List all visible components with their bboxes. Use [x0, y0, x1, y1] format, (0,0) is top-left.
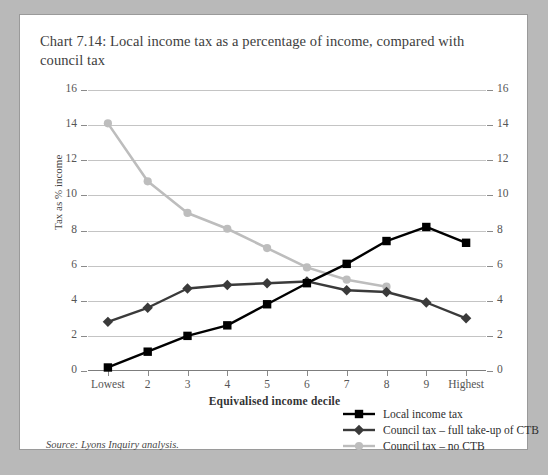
series-marker [421, 297, 431, 307]
series-marker [462, 239, 470, 247]
y-axis-tick [487, 266, 493, 267]
y-axis-label: 4 [497, 293, 503, 305]
y-axis-tick [487, 195, 493, 196]
series-marker [303, 279, 311, 287]
legend-item[interactable]: Local income tax [342, 406, 539, 422]
series-marker [262, 278, 272, 288]
x-axis-tick [466, 371, 467, 376]
legend-label: Council tax – full take-up of CTB [383, 424, 539, 436]
x-axis-tick [227, 371, 228, 376]
y-axis-tick [81, 125, 87, 126]
y-axis-label: 6 [71, 258, 77, 270]
legend-key-square-icon [342, 407, 376, 421]
y-axis-label: 14 [497, 117, 509, 129]
series-marker [263, 300, 271, 308]
x-axis-label: 3 [185, 378, 191, 390]
y-axis-label: 0 [71, 363, 77, 375]
y-axis-label: 2 [71, 328, 77, 340]
y-axis-tick [487, 231, 493, 232]
x-axis-label: 2 [145, 378, 151, 390]
x-axis-label: 4 [224, 378, 230, 390]
series-marker [342, 285, 352, 295]
y-axis-tick [81, 336, 87, 337]
series-marker [303, 263, 311, 271]
y-axis-label: 12 [66, 152, 78, 164]
chart-figure-panel: Chart 7.14: Local income tax as a percen… [19, 14, 528, 450]
series-marker [144, 177, 152, 185]
y-axis-label: 0 [497, 363, 503, 375]
y-axis-tick [81, 371, 87, 372]
series-marker [182, 283, 192, 293]
legend-key-circle-icon [342, 439, 376, 453]
series-line [108, 281, 466, 321]
plot-area: 00224466881010121214141616 Lowest2345678… [88, 90, 486, 371]
y-axis-label: 4 [71, 293, 77, 305]
legend-item[interactable]: Council tax – no CTB [342, 438, 539, 454]
series-marker [104, 119, 112, 127]
x-axis-tick [347, 371, 348, 376]
series-marker [183, 209, 191, 217]
series-marker [343, 260, 351, 268]
y-axis-label: 6 [497, 258, 503, 270]
x-axis-tick [426, 371, 427, 376]
y-axis-label: 8 [71, 223, 77, 235]
x-axis-label: 5 [264, 378, 270, 390]
series-marker [223, 321, 231, 329]
y-axis-label: 10 [497, 187, 509, 199]
y-axis-tick [81, 301, 87, 302]
y-axis-label: 16 [497, 82, 509, 94]
y-axis-label: 2 [497, 328, 503, 340]
series-marker [143, 303, 153, 313]
y-axis-tick [81, 90, 87, 91]
x-axis-label: 6 [304, 378, 310, 390]
series-marker [103, 317, 113, 327]
series-marker [222, 280, 232, 290]
source-note: Source: Lyons Inquiry analysis. [46, 439, 179, 450]
y-axis-title: Tax as % income [52, 155, 64, 230]
x-axis-tick [148, 371, 149, 376]
y-axis-label: 14 [66, 117, 78, 129]
y-axis-tick [81, 266, 87, 267]
series-marker [343, 276, 351, 284]
chart-legend: Local income taxCouncil tax – full take-… [342, 406, 539, 454]
legend-item[interactable]: Council tax – full take-up of CTB [342, 422, 539, 438]
y-axis-tick [487, 336, 493, 337]
y-axis-tick [81, 195, 87, 196]
x-axis-tick [108, 371, 109, 376]
y-axis-tick [487, 301, 493, 302]
series-marker [183, 332, 191, 340]
y-axis-tick [487, 90, 493, 91]
series-marker [422, 223, 430, 231]
y-axis-tick [81, 160, 87, 161]
x-axis-label: 9 [423, 378, 429, 390]
x-axis-label: Highest [448, 378, 484, 390]
x-axis-label: 7 [344, 378, 350, 390]
series-marker [461, 313, 471, 323]
y-axis-tick [487, 125, 493, 126]
y-axis-label: 8 [497, 223, 503, 235]
x-axis-label: Lowest [91, 378, 125, 390]
x-axis-tick [188, 371, 189, 376]
x-axis-tick [307, 371, 308, 376]
y-axis-tick [81, 231, 87, 232]
series-marker [382, 237, 390, 245]
legend-label: Local income tax [383, 408, 463, 420]
y-axis-tick [487, 371, 493, 372]
y-axis-label: 10 [66, 187, 78, 199]
y-axis-label: 16 [66, 82, 78, 94]
chart-title: Chart 7.14: Local income tax as a percen… [40, 32, 500, 70]
x-axis-label: 8 [384, 378, 390, 390]
x-axis-tick [387, 371, 388, 376]
series-line [108, 227, 466, 367]
x-axis-tick [267, 371, 268, 376]
y-axis-label: 12 [497, 152, 509, 164]
series-marker [223, 225, 231, 233]
series-marker [104, 363, 112, 371]
legend-key-diamond-icon [342, 423, 376, 437]
y-axis-tick [487, 160, 493, 161]
series-marker [263, 244, 271, 252]
series-layer [88, 90, 486, 371]
legend-label: Council tax – no CTB [383, 440, 485, 452]
series-marker [144, 347, 152, 355]
